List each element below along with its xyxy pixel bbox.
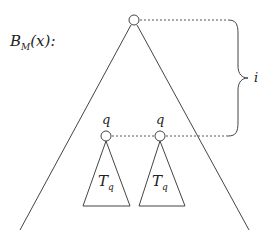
title-label: BM(x): (9, 32, 55, 52)
outer-triangle-left-edge (20, 25, 131, 230)
left-q-node (101, 131, 111, 141)
diagram-canvas: BM(x): i q Tq q Tq (0, 0, 273, 242)
curly-brace (228, 20, 248, 136)
right-q-label: q (156, 112, 164, 127)
left-subtree-label: Tq (98, 172, 114, 192)
root-node (129, 15, 139, 25)
right-q-node (155, 131, 165, 141)
right-subtree-label: Tq (152, 172, 168, 192)
brace-label-i: i (254, 70, 258, 85)
left-q-label: q (102, 112, 110, 127)
outer-triangle-right-edge (137, 25, 249, 230)
